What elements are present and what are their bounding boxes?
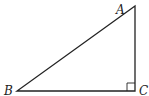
triangle-abc	[17, 6, 135, 91]
vertex-label-b: B	[3, 84, 13, 96]
vertex-label-c: C	[139, 84, 148, 96]
vertex-label-a: A	[115, 3, 125, 17]
right-angle-marker	[127, 83, 135, 91]
triangle-diagram: A B C	[0, 0, 149, 96]
